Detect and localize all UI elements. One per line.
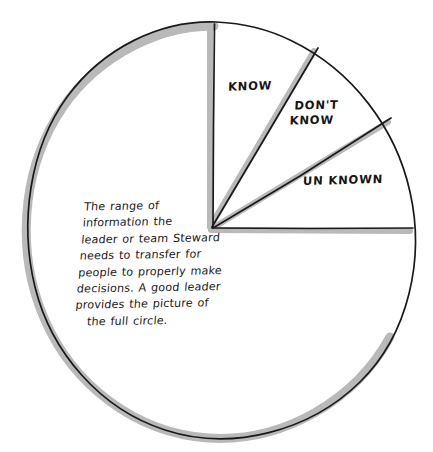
annotation-line-8: the full circle. — [73, 311, 254, 331]
sector-label-know: KNOW — [228, 78, 273, 94]
sector-label-unknown: UN KNOWN — [303, 172, 384, 188]
annotation-text-block: The range of information the leader or t… — [73, 196, 264, 331]
diagram-canvas: KNOW DON'T KNOW UN KNOWN The range of in… — [0, 0, 433, 452]
sector-label-dont-know-line1: DON'T — [294, 98, 339, 113]
sector-label-dont-know: DON'T KNOW — [293, 98, 339, 129]
sector-label-dont-know-line2: KNOW — [289, 113, 338, 128]
